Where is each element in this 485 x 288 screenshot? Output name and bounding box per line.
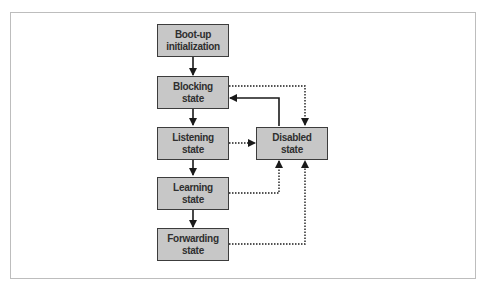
- edge-learning-to-disabled: [229, 161, 279, 193]
- node-label-line1: Boot-up: [175, 29, 211, 41]
- edge-disabled-to-blocking: [230, 98, 279, 126]
- edge-blocking-to-disabled: [229, 86, 305, 125]
- node-bootup-initialization: Boot-up initialization: [157, 24, 229, 57]
- node-label-line2: state: [182, 93, 204, 105]
- node-label-line2: state: [182, 194, 204, 206]
- node-label-line2: state: [182, 144, 204, 156]
- node-label-line1: Listening: [172, 132, 214, 144]
- node-blocking-state: Blocking state: [157, 76, 229, 109]
- node-label-line1: Learning: [173, 182, 213, 194]
- node-label-line1: Disabled: [272, 132, 311, 144]
- node-learning-state: Learning state: [157, 177, 229, 210]
- node-disabled-state: Disabled state: [256, 127, 328, 160]
- edge-forwarding-to-disabled: [229, 161, 305, 244]
- node-label-line1: Forwarding: [167, 233, 218, 245]
- node-label-line2: initialization: [166, 41, 220, 53]
- node-label-line1: Blocking: [173, 81, 213, 93]
- edges-layer: [0, 0, 485, 288]
- node-listening-state: Listening state: [157, 127, 229, 160]
- node-forwarding-state: Forwarding state: [157, 228, 229, 261]
- node-label-line2: state: [281, 144, 303, 156]
- node-label-line2: state: [182, 245, 204, 257]
